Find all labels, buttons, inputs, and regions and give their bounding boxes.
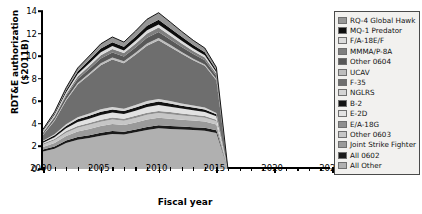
x-tick-mark-minor (135, 167, 136, 171)
legend-swatch-icon (338, 48, 347, 55)
y-tick-label: 6 (3, 96, 43, 106)
y-axis-title: RDT&E authorization ($2011B) (10, 0, 30, 137)
x-tick-mark-minor (228, 167, 229, 171)
x-tick-mark-minor (55, 167, 56, 171)
chart-legend: RQ-4 Global HawkMQ-1 PredatorF/A-18E/FMM… (334, 11, 420, 175)
legend-swatch-icon (338, 121, 347, 128)
legend-item[interactable]: E-2D (338, 109, 417, 119)
legend-label: RQ-4 Global Hawk (350, 17, 415, 24)
x-axis-title: Fiscal year (40, 197, 330, 207)
legend-swatch-icon (338, 141, 347, 148)
legend-item[interactable]: E/A-18G (338, 119, 417, 129)
legend-item[interactable]: Joint Strike Fighter (338, 140, 417, 150)
legend-item[interactable]: UCAV (338, 67, 417, 77)
y-tick-label: 12 (3, 29, 43, 39)
legend-item[interactable]: MMMA/P-8A (338, 46, 417, 56)
x-tick-mark-minor (124, 167, 125, 171)
legend-label: E/A-18G (350, 121, 379, 128)
legend-item[interactable]: RQ-4 Global Hawk (338, 15, 417, 25)
x-tick-label: 2015 (204, 163, 226, 173)
x-tick-mark-minor (78, 167, 79, 171)
legend-item[interactable]: F/A-18E/F (338, 36, 417, 46)
legend-label: UCAV (350, 69, 370, 76)
chart-figure: RDT&E authorization ($2011B) 02468101214… (0, 0, 422, 214)
legend-label: Other 0603 (350, 131, 391, 138)
legend-swatch-icon (338, 162, 347, 169)
x-tick-mark-minor (309, 167, 310, 171)
legend-label: Other 0604 (350, 58, 391, 65)
y-tick-label: 14 (3, 6, 43, 16)
stacked-area-svg (43, 11, 332, 169)
plot-area: 02468101214 (41, 11, 330, 169)
x-tick-mark-minor (297, 167, 298, 171)
legend-item[interactable]: Other 0604 (338, 57, 417, 67)
x-tick-mark-minor (170, 167, 171, 171)
x-tick-mark-minor (193, 167, 194, 171)
x-tick-mark-minor (240, 167, 241, 171)
legend-swatch-icon (338, 152, 347, 159)
legend-item[interactable]: All Other (338, 160, 417, 170)
legend-swatch-icon (338, 58, 347, 65)
legend-item[interactable]: B-2 (338, 98, 417, 108)
x-tick-label: 2000 (30, 163, 52, 173)
x-tick-label: 2005 (88, 163, 110, 173)
legend-item[interactable]: All 0602 (338, 150, 417, 160)
x-tick-mark-minor (112, 167, 113, 171)
legend-item[interactable]: MQ-1 Predator (338, 25, 417, 35)
x-tick-mark-minor (251, 167, 252, 171)
y-tick-label: 8 (3, 74, 43, 84)
x-tick-mark-minor (182, 167, 183, 171)
x-tick-label: 2020 (261, 163, 283, 173)
x-tick-mark-minor (286, 167, 287, 171)
legend-swatch-icon (338, 69, 347, 76)
legend-swatch-icon (338, 100, 347, 107)
legend-label: All 0602 (350, 152, 380, 159)
legend-swatch-icon (338, 131, 347, 138)
y-tick-label: 2 (3, 141, 43, 151)
x-tick-label: 2010 (146, 163, 168, 173)
legend-label: NGLRS (350, 89, 375, 96)
legend-item[interactable]: F-35 (338, 77, 417, 87)
legend-label: B-2 (350, 100, 362, 107)
legend-label: F-35 (350, 79, 366, 86)
legend-label: MQ-1 Predator (350, 27, 402, 34)
legend-swatch-icon (338, 17, 347, 24)
y-tick-label: 10 (3, 51, 43, 61)
y-tick-label: 4 (3, 119, 43, 129)
legend-label: All Other (350, 162, 382, 169)
legend-label: MMMA/P-8A (350, 48, 392, 55)
legend-swatch-icon (338, 79, 347, 86)
x-tick-mark-minor (66, 167, 67, 171)
legend-swatch-icon (338, 110, 347, 117)
legend-swatch-icon (338, 37, 347, 44)
legend-item[interactable]: Other 0603 (338, 129, 417, 139)
legend-label: F/A-18E/F (350, 37, 384, 44)
legend-label: Joint Strike Fighter (350, 141, 416, 148)
legend-swatch-icon (338, 89, 347, 96)
legend-swatch-icon (338, 27, 347, 34)
legend-item[interactable]: NGLRS (338, 88, 417, 98)
legend-label: E-2D (350, 110, 367, 117)
